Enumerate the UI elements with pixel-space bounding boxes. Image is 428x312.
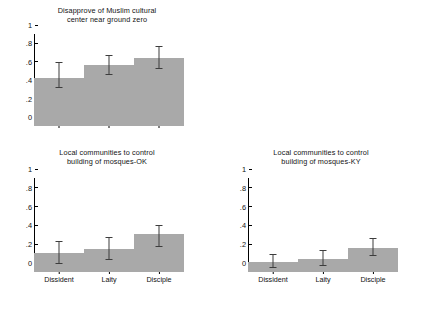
panel-title: Local communities to control building of… [0,148,214,166]
error-bar-cap-bottom [106,74,113,75]
error-bar-cap-bottom [320,265,327,266]
error-bar-cap-top [370,238,377,239]
error-bar-cap-top [106,55,113,56]
plot-area: 0.2.4.6.81 DissidentLaityDisciple [248,178,398,272]
x-axis-tick-label-dissident: Dissident [44,271,74,284]
error-bar-cap-top [270,254,277,255]
y-axis-tick-label: 1 [242,165,249,174]
error-bar-cap-top [156,225,163,226]
error-bar-cap-top [56,62,63,63]
error-bar-cap-bottom [370,255,377,256]
error-bar-stem [159,46,160,69]
panel-title: Local communities to control building of… [214,148,428,166]
bars-group [248,178,398,272]
error-bar-cap-bottom [56,87,63,88]
panel-local-communities-mosques-ky: Local communities to control building of… [214,148,428,312]
bars-group [34,178,184,272]
panel-disapprove-muslim-cultural-center: Disapprove of Muslim cultural center nea… [0,6,214,156]
y-axis-tick-mark [35,25,38,26]
error-bar-stem [273,254,274,268]
x-axis-tick-label-laity: Laity [101,271,116,284]
error-bar-cap-bottom [156,246,163,247]
error-bar-stem [109,237,110,260]
error-bar-cap-bottom [56,263,63,264]
error-bar-stem [373,238,374,256]
error-bar-cap-top [156,46,163,47]
error-bar-cap-bottom [270,267,277,268]
error-bar-stem [109,55,110,75]
bars-group [34,34,184,126]
error-bar-cap-bottom [106,259,113,260]
error-bar-stem [159,225,160,247]
error-bar-stem [59,241,60,264]
error-bar-cap-bottom [156,68,163,69]
error-bar-cap-top [56,241,63,242]
multi-panel-bar-chart: Disapprove of Muslim cultural center nea… [0,0,428,312]
error-bar-stem [59,62,60,89]
x-axis-tick-label-dissident: Dissident [258,271,288,284]
x-axis-tick-label-disciple: Disciple [360,271,385,284]
plot-area: 0.2.4.6.81 DissidentLaityDisciple [34,178,184,272]
x-axis-tick-label-laity: Laity [315,271,330,284]
panel-local-communities-mosques-ok: Local communities to control building of… [0,148,214,312]
y-axis-tick-label: 1 [28,21,35,30]
error-bar-stem [323,250,324,266]
error-bar-cap-top [106,237,113,238]
y-axis-tick-mark [35,169,38,170]
y-axis-tick-mark [249,169,252,170]
error-bar-cap-top [320,250,327,251]
y-axis-tick-label: 1 [28,165,35,174]
plot-area: 0.2.4.6.81 [34,34,184,126]
x-axis-tick-label-disciple: Disciple [146,271,171,284]
